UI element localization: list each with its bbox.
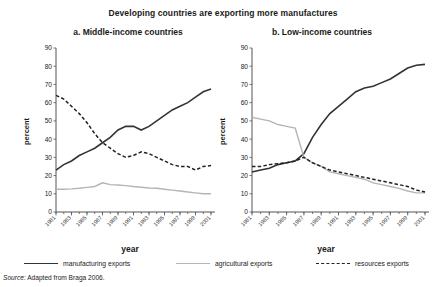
panel-b-ytick-60: 60 (241, 99, 249, 106)
figure-container: Developing countries are exporting more … (0, 0, 446, 287)
panel-b-ytick-10: 10 (241, 190, 249, 197)
source-prefix: Source: (3, 274, 26, 281)
panel-b-xtick-label: 2001 (413, 214, 426, 227)
panel-b-xtick-label: 1995 (361, 214, 374, 227)
panel-b-series-agricultural (252, 117, 425, 193)
panel-b-xtick-label: 1983 (257, 214, 270, 227)
legend-label-manufacturing: manufacturing exports (63, 260, 130, 267)
source-text: Adapted from Braga 2006. (27, 274, 104, 281)
panel-b-xtick-label: 1989 (309, 214, 322, 227)
panel-b-xtick-label: 1993 (343, 214, 356, 227)
legend-label-resources: resources exports (355, 260, 409, 267)
panel-b-plot: 0102030405060708090198119831985198719891… (0, 0, 446, 287)
source-note: Source: Adapted from Braga 2006. (3, 274, 105, 281)
panel-b-xtick-label: 1985 (274, 214, 287, 227)
panel-b-xtick-label: 1991 (326, 214, 339, 227)
panel-b-xtick-label: 1999 (395, 214, 408, 227)
legend-swatch-solid-icon (24, 263, 58, 265)
panel-b-ytick-40: 40 (241, 136, 249, 143)
panel-b-ytick-80: 80 (241, 63, 249, 70)
panel-b-ytick-70: 70 (241, 81, 249, 88)
panel-b-xtick-label: 1987 (292, 214, 305, 227)
legend-item-agricultural: agricultural exports (176, 260, 316, 267)
legend-item-resources: resources exports (316, 260, 446, 267)
legend-swatch-dashed-icon (316, 263, 350, 264)
panel-b-ytick-30: 30 (241, 154, 249, 161)
panel-b-series-manufacturing (252, 64, 425, 172)
panel-b-ytick-20: 20 (241, 172, 249, 179)
legend-label-agricultural: agricultural exports (215, 260, 272, 267)
panel-b-ytick-90: 90 (241, 44, 249, 51)
panel-b-xtick-label: 1981 (240, 214, 253, 227)
panel-b-ytick-50: 50 (241, 117, 249, 124)
legend: manufacturing exports agricultural expor… (0, 260, 446, 267)
legend-item-manufacturing: manufacturing exports (24, 260, 176, 267)
legend-swatch-light-icon (176, 263, 210, 264)
panel-b-xtick-label: 1997 (378, 214, 391, 227)
panel-b-series-resources (252, 157, 425, 192)
